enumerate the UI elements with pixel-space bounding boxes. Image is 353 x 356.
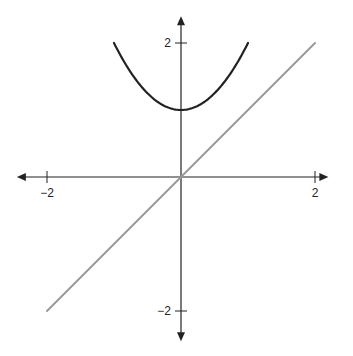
- axes: [17, 16, 329, 341]
- x-tick-label: −2: [40, 186, 54, 200]
- y-tick-label: 2: [164, 36, 171, 50]
- x-axis-right-arrow-icon: [319, 173, 328, 181]
- x-axis-left-arrow-icon: [17, 173, 26, 181]
- y-tick-label: −2: [157, 304, 171, 318]
- y-axis-down-arrow-icon: [177, 332, 185, 341]
- y-axis-up-arrow-icon: [177, 16, 185, 25]
- x-tick-label: 2: [312, 186, 319, 200]
- function-plot: −22−22: [0, 0, 353, 356]
